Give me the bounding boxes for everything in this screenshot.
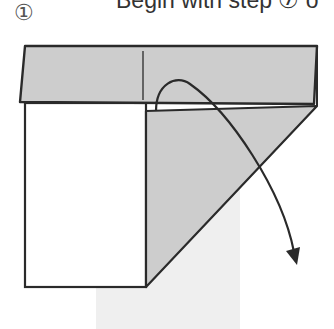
left-white-panel: [25, 103, 146, 287]
arrow-head-icon: [286, 247, 300, 265]
top-folded-band: [20, 46, 317, 104]
origami-fold-diagram: [0, 0, 334, 329]
